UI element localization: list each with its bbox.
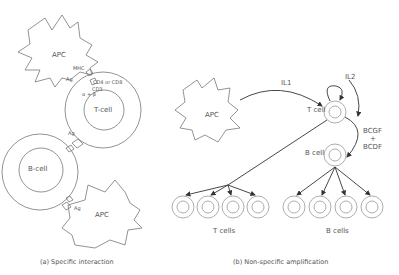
tcell-b-label: T cell	[307, 107, 326, 114]
tcells-label: T cells	[213, 228, 235, 235]
apc-top-label: APC	[52, 52, 66, 59]
ag-mid-label: Ag	[68, 131, 75, 136]
alpha-beta-label: α + β	[82, 92, 96, 97]
bcgf-label: BCGF	[363, 128, 382, 135]
tcell-label: T-cell	[94, 107, 112, 114]
apc-bottom-label: APC	[95, 212, 109, 219]
apc-b-shape	[175, 78, 240, 142]
bcells-label: B cells	[326, 228, 349, 235]
caption-b: (b) Non-specific amplification	[233, 258, 328, 266]
mhc-label: MHC	[73, 66, 85, 71]
ag-bottom-label: Ag	[74, 206, 81, 211]
cd-label: CD4 or CD8	[93, 80, 122, 85]
il2-label: IL2	[345, 74, 355, 81]
apc-b-label: APC	[205, 112, 219, 119]
plus-label: +	[370, 136, 376, 143]
il1-label: IL1	[281, 80, 291, 87]
ag-top-label: Ag	[66, 77, 73, 82]
bcell-label: B-cell	[28, 166, 47, 173]
bcdf-label: BCDF	[363, 144, 382, 151]
bcell-b-label: B cell	[305, 150, 324, 157]
caption-a: (a) Specific interaction	[40, 258, 114, 266]
